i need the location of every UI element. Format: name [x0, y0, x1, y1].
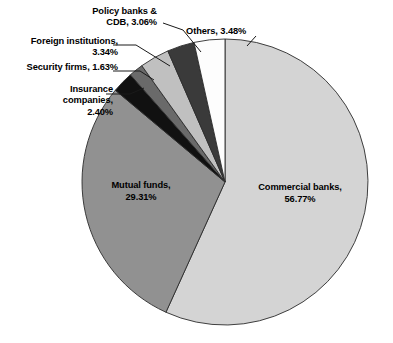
slice-label-security-firms: Security firms, 1.63%	[27, 62, 118, 73]
slice-label-mutual-funds: Mutual funds,29.31%	[98, 180, 184, 203]
slice-label-security-firms-line1: Security firms, 1.63%	[27, 62, 118, 72]
slice-label-commercial-banks: Commercial banks,56.77%	[250, 182, 350, 205]
slice-label-insurance-companies-line3: 2.40%	[87, 107, 113, 117]
slice-label-commercial-banks-value: 56.77%	[285, 194, 316, 204]
slice-label-policy-banks-cdb: Policy banks &CDB, 3.06%	[92, 6, 157, 29]
slice-label-others-line1: Others, 3.48%	[186, 26, 246, 36]
slice-label-insurance-companies: Insurancecompanies,2.40%	[63, 84, 113, 118]
slice-label-policy-banks-cdb-line1: Policy banks &	[92, 6, 157, 16]
pie-chart-figure: Policy banks &CDB, 3.06% Others, 3.48% F…	[0, 0, 393, 343]
slice-label-foreign-institutions-line1: Foreign institutions,	[31, 36, 118, 46]
slice-label-mutual-funds-name: Mutual funds,	[111, 180, 170, 190]
slice-label-commercial-banks-name: Commercial banks,	[258, 182, 342, 192]
slice-label-policy-banks-cdb-line2: CDB, 3.06%	[106, 17, 157, 27]
slice-label-mutual-funds-value: 29.31%	[126, 192, 157, 202]
slice-label-foreign-institutions: Foreign institutions,3.34%	[31, 36, 118, 59]
slice-label-insurance-companies-line1: Insurance	[70, 84, 113, 94]
slice-label-insurance-companies-line2: companies,	[63, 95, 113, 105]
slice-label-others: Others, 3.48%	[186, 26, 246, 37]
slice-label-foreign-institutions-line2: 3.34%	[92, 47, 118, 57]
